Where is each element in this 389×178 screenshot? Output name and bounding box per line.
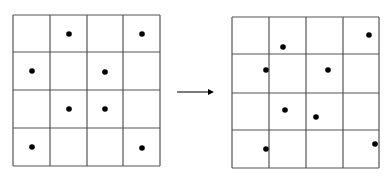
right-grid-dot-3 <box>325 67 331 73</box>
right-grid-dot-5 <box>313 114 319 120</box>
left-grid-dot-7 <box>139 145 145 151</box>
left-grid <box>13 15 160 166</box>
left-grid-dot-2 <box>29 68 35 74</box>
arrow-head <box>208 89 214 95</box>
right-grid-dot-1 <box>366 32 372 38</box>
right-grid <box>232 17 379 168</box>
left-grid-dot-4 <box>66 106 72 112</box>
diagram-canvas <box>0 0 389 178</box>
right-arrow-icon <box>177 89 214 95</box>
left-grid-dot-5 <box>102 106 108 112</box>
left-grid-dot-0 <box>66 31 72 37</box>
left-grid-dot-3 <box>102 69 108 75</box>
right-grid-dot-6 <box>263 146 269 152</box>
left-grid-dot-6 <box>29 144 35 150</box>
right-grid-dot-4 <box>282 107 288 113</box>
left-grid-dot-1 <box>139 31 145 37</box>
right-grid-dot-0 <box>280 44 286 50</box>
right-grid-dot-7 <box>372 141 378 147</box>
right-grid-dot-2 <box>263 67 269 73</box>
